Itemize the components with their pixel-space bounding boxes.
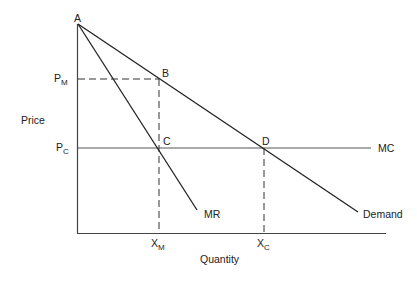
point-b-label: B <box>162 67 169 79</box>
xc-main: X <box>257 237 264 249</box>
point-c-label: C <box>163 135 171 147</box>
mr-label: MR <box>204 208 221 220</box>
xm-sub: M <box>158 243 165 252</box>
demand-label: Demand <box>363 208 403 220</box>
x-axis-title: Quantity <box>200 253 240 265</box>
point-d-label: D <box>262 135 270 147</box>
xc-sub: C <box>264 243 270 252</box>
y-axis-title: Price <box>21 114 45 126</box>
pm-main: P <box>54 72 61 84</box>
demand-line <box>78 24 358 212</box>
mr-line <box>78 24 197 210</box>
xc-tick-label: XC <box>257 237 270 252</box>
xm-main: X <box>151 237 158 249</box>
monopoly-diagram: A B C D MC Demand MR PM PC XM XC Price Q… <box>0 0 417 285</box>
pm-sub: M <box>61 78 68 87</box>
mc-label: MC <box>378 142 395 154</box>
pm-tick-label: PM <box>54 72 68 87</box>
chart-canvas: A B C D MC Demand MR PM PC XM XC Price Q… <box>0 0 417 285</box>
pc-tick-label: PC <box>56 141 69 156</box>
pc-main: P <box>56 141 63 153</box>
pc-sub: C <box>63 147 69 156</box>
xm-tick-label: XM <box>151 237 165 252</box>
point-a-label: A <box>74 12 81 24</box>
